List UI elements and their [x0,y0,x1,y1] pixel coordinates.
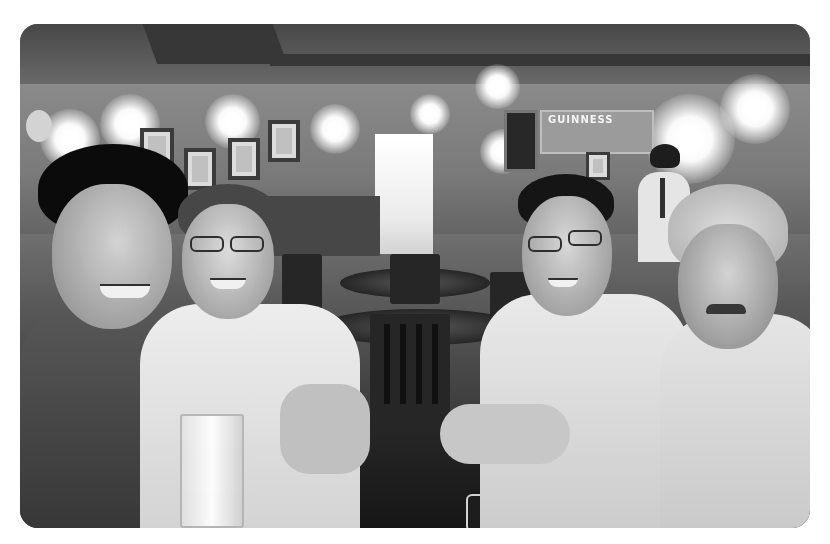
face [52,184,172,329]
face [182,204,274,319]
wall-frame [184,148,216,190]
face [522,196,612,316]
chair [370,314,450,434]
wall-clock [26,110,52,142]
glasses [190,236,224,252]
arm [440,404,570,464]
ceiling-beam [270,54,810,66]
wall-frame [268,120,300,162]
pub-photo: GUINNESS [20,24,810,528]
bright-doorway [375,134,433,254]
sign-label: GUINNESS [548,114,614,125]
smile [100,284,150,298]
wall-frame [228,138,260,180]
mustache [706,304,746,314]
wall-frame [586,152,610,180]
arm [280,384,370,474]
ceiling-light [720,74,790,144]
back-bar-counter [260,196,380,256]
face [678,224,778,349]
smile [548,278,578,287]
ceiling-light [410,94,450,134]
glasses [230,236,264,252]
chair [390,254,440,304]
ceiling-light [310,104,360,154]
ceiling-light [475,64,520,109]
glasses [528,236,562,252]
drinking-glass [180,414,244,528]
guinness-sign: GUINNESS [540,110,654,154]
ceiling-beam [143,24,288,64]
glasses [568,230,602,246]
smile [210,278,246,289]
wall-poster [504,110,538,172]
